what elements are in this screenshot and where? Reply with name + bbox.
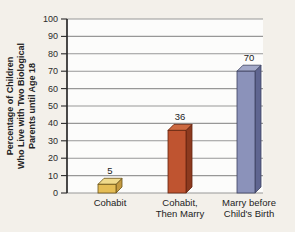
chart-canvas: 01020304050607080901005Cohabit36Cohabit,… [0, 0, 295, 232]
bar-side-marry-before-child-s-birth [255, 65, 261, 193]
y-tick-label: 60 [48, 84, 58, 94]
y-tick-label: 10 [48, 171, 58, 181]
y-tick-label: 40 [48, 118, 58, 128]
bar-front-marry-before-child-s-birth [237, 71, 255, 193]
x-category-label-marry-before-child-s-birth: Marry before [222, 197, 276, 208]
bar-value-label-cohabit: 5 [107, 165, 112, 176]
bar-front-cohabit-then-marry [168, 130, 186, 193]
bar-front-cohabit [98, 184, 116, 193]
y-axis-title-line: Percentage of Children [5, 57, 15, 156]
bar-side-cohabit-then-marry [186, 124, 192, 193]
y-axis-title-line: Parents until Age 18 [27, 63, 37, 149]
x-category-label-cohabit-then-marry: Cohabit, [162, 197, 197, 208]
y-axis-title-line: Who Live with Two Biological [16, 43, 26, 169]
y-tick-label: 20 [48, 153, 58, 163]
y-tick-label: 100 [43, 14, 58, 24]
bar-chart-figure: 01020304050607080901005Cohabit36Cohabit,… [0, 0, 295, 232]
bar-value-label-cohabit-then-marry: 36 [175, 111, 186, 122]
y-tick-label: 80 [48, 49, 58, 59]
x-category-label-cohabit-then-marry: Then Marry [156, 208, 205, 219]
y-tick-label: 90 [48, 31, 58, 41]
y-tick-label: 0 [53, 188, 58, 198]
y-tick-label: 70 [48, 66, 58, 76]
y-tick-label: 30 [48, 136, 58, 146]
bar-value-label-marry-before-child-s-birth: 70 [244, 52, 255, 63]
x-category-label-cohabit: Cohabit [94, 197, 127, 208]
y-tick-label: 50 [48, 101, 58, 111]
x-category-label-marry-before-child-s-birth: Child's Birth [224, 208, 274, 219]
